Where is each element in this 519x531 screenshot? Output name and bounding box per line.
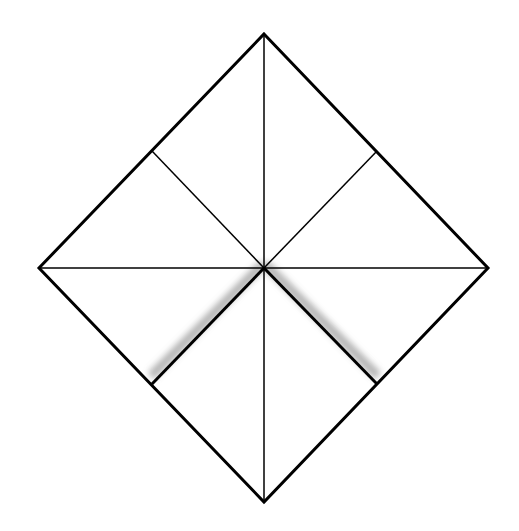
lower-right-fold-shadow [265, 264, 378, 376]
upper-left-crease [152, 151, 264, 268]
lower-right-fold [264, 268, 377, 384]
origami-diagram [0, 0, 519, 531]
lower-left-fold [152, 268, 264, 384]
upper-right-crease [264, 151, 377, 268]
lower-left-fold-shadow [151, 264, 263, 376]
